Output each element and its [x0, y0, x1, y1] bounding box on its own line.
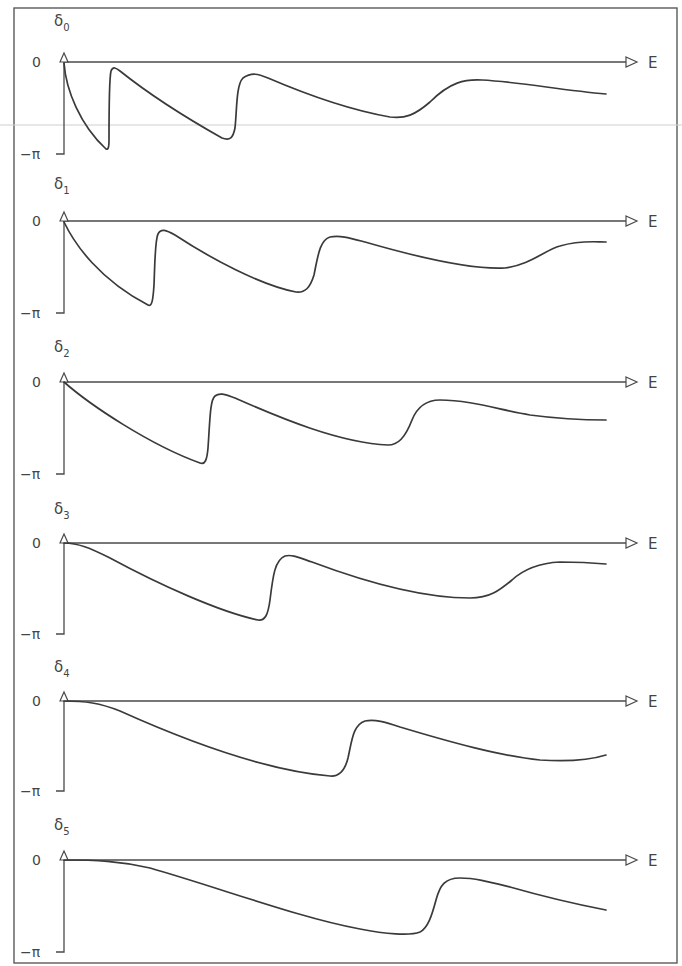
- tick-minus-pi: −π: [20, 626, 41, 642]
- panel-delta-0: δ0 0 −π E: [20, 12, 657, 162]
- y-axis-arrow-icon: [60, 53, 68, 62]
- panel-delta-1: δ1 0 −π E: [20, 175, 657, 321]
- phase-curve: [64, 701, 606, 776]
- x-axis-label: E: [648, 852, 657, 870]
- tick-zero: 0: [32, 535, 41, 551]
- tick-minus-pi: −π: [20, 146, 41, 162]
- y-axis: [56, 860, 64, 952]
- y-axis: [56, 543, 64, 634]
- y-axis-label: δ3: [54, 500, 70, 521]
- tick-zero: 0: [32, 693, 41, 709]
- y-axis-arrow-icon: [60, 534, 68, 543]
- y-axis-arrow-icon: [60, 851, 68, 860]
- x-axis-arrow-icon: [626, 57, 637, 67]
- phase-curve: [64, 382, 606, 463]
- y-axis-label: δ4: [54, 658, 70, 679]
- x-axis-label: E: [648, 374, 657, 392]
- figure-frame: [14, 8, 677, 963]
- x-axis-arrow-icon: [626, 377, 637, 387]
- x-axis-label: E: [648, 213, 657, 231]
- x-axis-label: E: [648, 54, 657, 72]
- x-axis-arrow-icon: [626, 216, 637, 226]
- y-axis-label: δ2: [54, 338, 70, 359]
- panel-delta-4: δ4 0 −π E: [20, 658, 657, 799]
- y-axis: [56, 221, 64, 313]
- y-axis: [56, 701, 64, 791]
- phase-curve: [64, 543, 606, 620]
- tick-zero: 0: [32, 54, 41, 70]
- y-axis-arrow-icon: [60, 212, 68, 221]
- panel-delta-3: δ3 0 −π E: [20, 500, 657, 642]
- x-axis-arrow-icon: [626, 696, 637, 706]
- y-axis-arrow-icon: [60, 373, 68, 382]
- y-axis: [56, 62, 64, 154]
- phase-shift-figure: δ0 0 −π E δ1 0 −π E δ2 0 −π E δ3 0 −π: [0, 0, 682, 966]
- y-axis-label: δ1: [54, 175, 70, 196]
- panel-delta-2: δ2 0 −π E: [20, 338, 657, 482]
- tick-minus-pi: −π: [20, 466, 41, 482]
- y-axis-label: δ5: [54, 816, 70, 837]
- tick-minus-pi: −π: [20, 783, 41, 799]
- tick-zero: 0: [32, 852, 41, 868]
- phase-curve: [64, 63, 606, 149]
- x-axis-label: E: [648, 693, 657, 711]
- x-axis-arrow-icon: [626, 538, 637, 548]
- y-axis: [56, 382, 64, 474]
- panel-delta-5: δ5 0 −π E: [20, 816, 657, 960]
- y-axis-arrow-icon: [60, 692, 68, 701]
- phase-curve: [64, 860, 606, 934]
- x-axis-arrow-icon: [626, 855, 637, 865]
- tick-minus-pi: −π: [20, 305, 41, 321]
- tick-zero: 0: [32, 374, 41, 390]
- tick-zero: 0: [32, 213, 41, 229]
- phase-curve: [64, 222, 606, 305]
- x-axis-label: E: [648, 535, 657, 553]
- tick-minus-pi: −π: [20, 944, 41, 960]
- y-axis-label: δ0: [54, 12, 70, 33]
